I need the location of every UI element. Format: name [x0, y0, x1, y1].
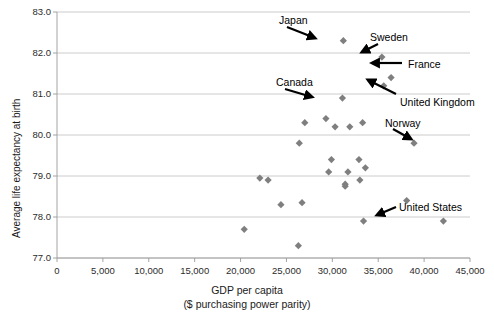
annotation-arrow [287, 27, 315, 38]
x-tick-label: 25,000 [261, 266, 311, 276]
data-point-marker [344, 168, 351, 175]
data-point-marker [339, 95, 346, 102]
data-point-marker [301, 119, 308, 126]
series-annotation-label: Canada [276, 77, 313, 88]
y-tick-label: 78.0 [3, 212, 51, 222]
data-point-marker [328, 156, 335, 163]
x-tick-label: 15,000 [170, 266, 220, 276]
data-point-marker [322, 115, 329, 122]
x-axis-title: GDP per capita ($ purchasing power parit… [0, 283, 494, 311]
data-point-marker [340, 37, 347, 44]
data-point-marker [346, 123, 353, 130]
annotation-arrow [377, 207, 396, 215]
data-point-marker [387, 74, 394, 81]
y-tick-label: 80.0 [3, 130, 51, 140]
x-tick-label: 35,000 [353, 266, 403, 276]
data-point-marker [378, 54, 385, 61]
y-tick-label: 81.0 [3, 89, 51, 99]
x-axis-title-line1: GDP per capita [0, 283, 494, 297]
data-point-marker [325, 168, 332, 175]
data-point-marker [298, 199, 305, 206]
data-point-marker [410, 140, 417, 147]
data-point-marker [256, 174, 263, 181]
data-point-marker [440, 218, 447, 225]
x-tick-label: 0 [32, 266, 82, 276]
data-point-marker [241, 226, 248, 233]
series-annotation-label: Sweden [370, 32, 408, 43]
series-annotation-label: United Kingdom [400, 97, 475, 108]
data-point-marker [360, 218, 367, 225]
x-tick-label: 40,000 [399, 266, 449, 276]
series-annotation-label: Norway [385, 118, 421, 129]
data-point-marker [277, 201, 284, 208]
data-point-marker [355, 156, 362, 163]
data-point-marker [356, 177, 363, 184]
x-tick-label: 20,000 [216, 266, 266, 276]
y-tick-label: 77.0 [3, 253, 51, 263]
annotation-arrow [368, 80, 396, 94]
data-point-marker [296, 140, 303, 147]
annotation-arrow [393, 129, 411, 139]
x-tick-label: 45,000 [445, 266, 494, 276]
data-point-marker [295, 242, 302, 249]
series-annotation-label: Japan [279, 15, 308, 26]
data-point-marker [331, 123, 338, 130]
data-point-marker [359, 119, 366, 126]
annotation-arrow [285, 89, 312, 97]
scatter-chart: Average life expectancy at birth 77.078.… [0, 0, 494, 312]
x-axis-title-line2: ($ purchasing power parity) [0, 297, 494, 311]
y-tick-label: 83.0 [3, 7, 51, 17]
x-tick-label: 10,000 [124, 266, 174, 276]
data-point-marker [362, 164, 369, 171]
data-point-marker [264, 177, 271, 184]
series-annotation-label: United States [399, 202, 462, 213]
x-tick-label: 5,000 [78, 266, 128, 276]
x-tick-label: 30,000 [307, 266, 357, 276]
annotation-arrow [362, 44, 378, 52]
series-annotation-label: France [408, 59, 441, 70]
y-tick-label: 82.0 [3, 48, 51, 58]
y-tick-label: 79.0 [3, 171, 51, 181]
